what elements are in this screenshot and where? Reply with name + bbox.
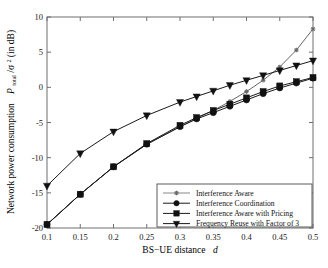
- marker-triangle-down: [110, 129, 117, 136]
- marker-square: [210, 108, 216, 114]
- legend-label: Interference Aware: [196, 189, 254, 198]
- marker-square: [111, 164, 117, 170]
- marker-square: [194, 115, 200, 121]
- marker-square: [177, 122, 183, 128]
- chart-svg: 0.10.150.20.250.30.350.40.450.5 -20-15-1…: [0, 0, 328, 268]
- legend-label: Interference Aware with Pricing: [196, 209, 293, 218]
- marker-star: [244, 89, 249, 94]
- legend[interactable]: Interference AwareInterference Coordinat…: [157, 184, 312, 228]
- marker-square: [227, 101, 233, 107]
- legend-label: Frequency Reuse with Factor of 3: [196, 219, 299, 228]
- y-axis-title-sub: total: [11, 75, 17, 86]
- marker-triangle-down: [77, 151, 84, 158]
- y-axis-tick-labels: -20-15-10-50510: [32, 12, 43, 233]
- x-tick-label: 0.3: [175, 232, 186, 242]
- y-axis-title-text: Network power consumption: [6, 103, 16, 214]
- y-axis-title-unit: (in dB): [6, 30, 17, 57]
- y-axis-title-var: P: [6, 88, 16, 95]
- marker-square: [310, 74, 316, 80]
- marker-square: [77, 191, 83, 197]
- marker-circle: [174, 201, 179, 206]
- x-tick-label: 0.4: [241, 232, 252, 242]
- legend-label: Interference Coordination: [196, 199, 275, 208]
- marker-triangle-down: [43, 183, 50, 190]
- y-tick-label: 10: [35, 12, 44, 22]
- marker-square: [44, 221, 50, 227]
- x-tick-label: 0.15: [73, 232, 88, 242]
- x-tick-label: 0.45: [272, 232, 287, 242]
- marker-square: [260, 89, 266, 95]
- marker-square: [174, 211, 179, 216]
- marker-square: [293, 79, 299, 85]
- y-tick-label: 5: [39, 47, 43, 57]
- x-axis-title: BS−UE distance d: [142, 245, 218, 255]
- svg-text:Network power consumption: Network power consumption P total /σ 2 (…: [3, 30, 18, 214]
- marker-square: [144, 141, 150, 147]
- marker-square: [244, 95, 250, 101]
- y-axis-title: Network power consumption P total /σ 2 (…: [3, 30, 18, 214]
- x-tick-label: 0.2: [108, 232, 119, 242]
- figure-canvas: 0.10.150.20.250.30.350.40.450.5 -20-15-1…: [0, 0, 328, 268]
- x-axis-title-text: BS−UE distance: [142, 245, 205, 255]
- x-tick-label: 0.35: [206, 232, 221, 242]
- x-tick-label: 0.1: [42, 232, 53, 242]
- x-tick-label: 0.25: [139, 232, 154, 242]
- marker-star: [174, 191, 179, 196]
- marker-square: [277, 83, 283, 89]
- y-tick-label: -10: [32, 153, 43, 163]
- marker-star: [311, 27, 316, 32]
- y-tick-label: -20: [32, 223, 43, 233]
- y-tick-label: -15: [32, 188, 43, 198]
- y-tick-label: 0: [39, 82, 43, 92]
- y-axis-title-sup: 2: [6, 59, 12, 62]
- x-axis-title-var: d: [213, 245, 218, 255]
- y-axis-title-denom: /σ: [6, 65, 16, 73]
- y-tick-label: -5: [36, 118, 43, 128]
- x-axis-tick-labels: 0.10.150.20.250.30.350.40.450.5: [42, 232, 319, 242]
- x-tick-label: 0.5: [308, 232, 319, 242]
- svg-text:BS−UE distance d: BS−UE distance d: [142, 245, 218, 255]
- marker-star: [294, 48, 299, 53]
